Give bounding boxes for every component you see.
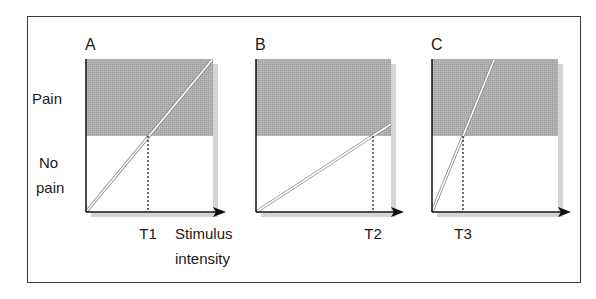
shadow-bottom [437,213,563,217]
panels: AT1BT2CT3 [85,36,571,242]
panel-b: BT2 [255,36,404,242]
shadow-bottom [261,213,396,217]
panel-label: B [255,36,266,53]
threshold-label: T2 [364,225,382,242]
panel-a: AT1 [85,36,226,242]
x-label-intensity: intensity [175,250,231,267]
y-label-no: No [39,154,58,171]
panel-label: A [85,36,96,53]
shadow-right [391,64,396,217]
threshold-label: T1 [139,225,157,242]
x-label-stimulus: Stimulus [175,225,233,242]
threshold-label: T3 [454,225,472,242]
panel-c: CT3 [431,36,571,242]
pain-region [86,59,213,136]
response-line [256,124,391,212]
outer-frame [28,17,581,283]
shadow-right [558,64,563,217]
pain-threshold-figure: Pain No pain Stimulus intensity AT1BT2CT… [0,0,596,299]
pain-region [256,59,391,136]
y-label-pain-lower: pain [36,179,64,196]
panel-label: C [431,36,443,53]
figure-canvas: Pain No pain Stimulus intensity AT1BT2CT… [0,0,596,299]
pain-region [432,59,558,136]
shadow-right [213,64,218,217]
shadow-bottom [91,213,218,217]
y-label-pain: Pain [32,90,62,107]
